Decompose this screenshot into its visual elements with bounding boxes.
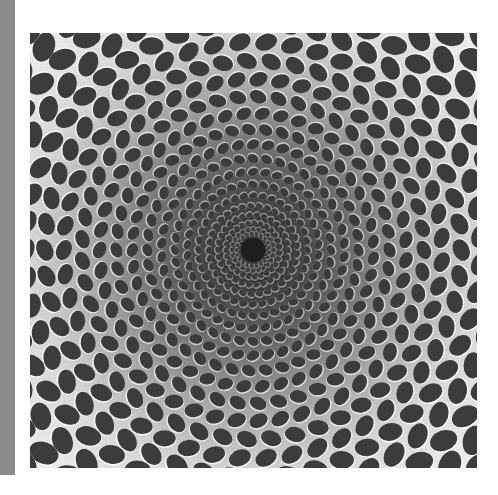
- tunnel-illusion-image: [30, 33, 477, 468]
- side-bar: [0, 0, 15, 475]
- dot-pattern: [30, 33, 477, 468]
